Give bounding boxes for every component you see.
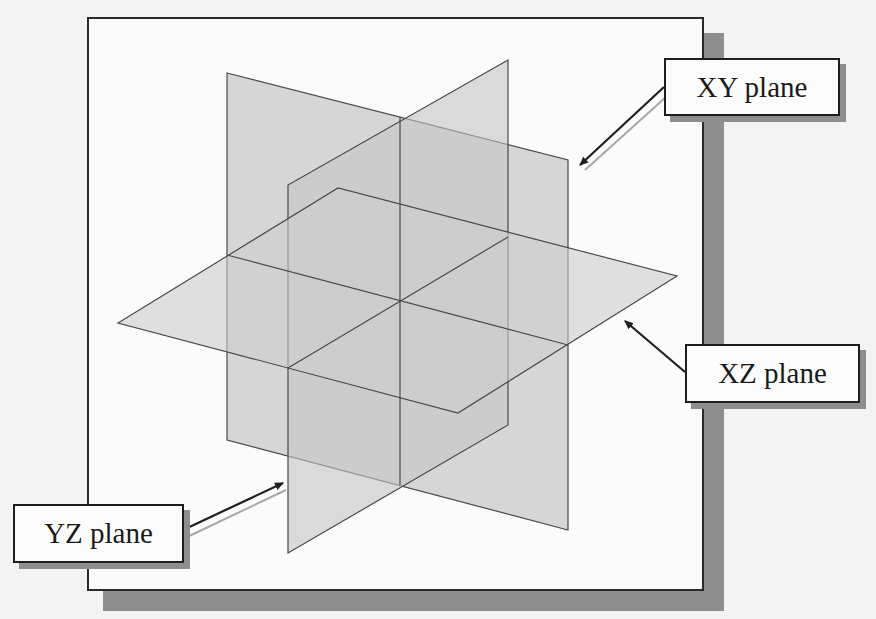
xy-arrow bbox=[580, 87, 664, 165]
yz-plane-label: YZ plane bbox=[13, 504, 184, 563]
xy-arrow-highlight bbox=[585, 97, 666, 170]
xy-plane-label: XY plane bbox=[664, 58, 840, 116]
yz-arrow bbox=[183, 483, 283, 530]
xz-plane-label: XZ plane bbox=[685, 344, 860, 403]
yz-arrow-highlight bbox=[185, 490, 286, 538]
xz-arrow bbox=[625, 321, 685, 372]
